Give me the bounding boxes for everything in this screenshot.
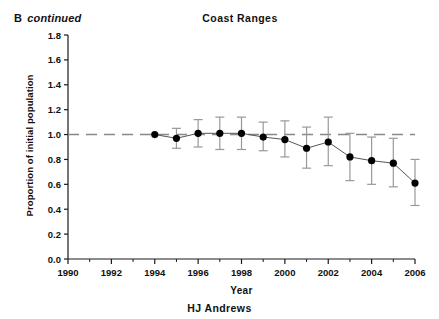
y-tick-label: 1.8: [48, 30, 61, 41]
plot-area: 0.00.20.40.60.81.01.21.41.61.81990199219…: [0, 0, 439, 319]
y-tick-label: 0.8: [48, 154, 61, 165]
y-tick-label: 0.2: [48, 229, 61, 240]
data-point: [303, 145, 310, 152]
data-point: [411, 179, 418, 186]
data-point: [325, 138, 332, 145]
data-point: [346, 153, 353, 160]
x-axis-label: Year: [68, 285, 415, 296]
data-point: [260, 133, 267, 140]
data-point: [368, 157, 375, 164]
y-tick-label: 0.0: [48, 254, 61, 265]
data-point: [173, 135, 180, 142]
data-point: [238, 130, 245, 137]
x-tick-label: 2004: [361, 267, 383, 278]
y-tick-label: 1.0: [48, 129, 61, 140]
figure-panel: Bcontinued Coast Ranges Proportion of in…: [0, 0, 439, 319]
y-tick-label: 1.2: [48, 104, 61, 115]
x-tick-label: 2000: [274, 267, 295, 278]
figure-footer-label: HJ Andrews: [0, 302, 439, 314]
x-tick-label: 2002: [318, 267, 339, 278]
y-tick-label: 0.4: [48, 204, 62, 215]
data-point: [195, 130, 202, 137]
y-tick-label: 1.4: [48, 79, 62, 90]
y-tick-label: 0.6: [48, 179, 61, 190]
x-tick-label: 1992: [101, 267, 122, 278]
x-tick-label: 1994: [144, 267, 166, 278]
x-tick-label: 1990: [57, 267, 78, 278]
data-point: [390, 160, 397, 167]
x-tick-label: 1996: [188, 267, 209, 278]
y-tick-label: 1.6: [48, 54, 61, 65]
data-point: [151, 131, 158, 138]
data-point: [281, 136, 288, 143]
x-tick-label: 2006: [404, 267, 425, 278]
data-point: [216, 130, 223, 137]
x-tick-label: 1998: [231, 267, 252, 278]
